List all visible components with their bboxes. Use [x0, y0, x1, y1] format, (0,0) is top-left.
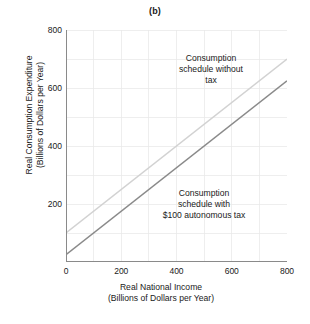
plot-area: Consumption schedule without tax Consump…: [66, 30, 287, 262]
y-axis-title: Real Consumption Expenditure (Billions o…: [24, 0, 46, 231]
annotation-no-tax-line-2: schedule without: [152, 64, 270, 75]
x-axis-line: [66, 261, 287, 262]
annotation-consumption-with-tax: Consumption schedule with $100 autonomou…: [128, 188, 280, 221]
annotation-consumption-without-tax: Consumption schedule without tax: [152, 53, 270, 86]
chart-figure: (b) 800 600 400 200 0 200 400 600 800 Re…: [0, 0, 310, 324]
annotation-with-tax-line-2: schedule with: [128, 199, 280, 210]
page-title: (b): [0, 6, 310, 16]
annotation-no-tax-line-3: tax: [152, 75, 270, 86]
annotation-with-tax-line-3: $100 autonomous tax: [128, 210, 280, 221]
x-axis-title-line-2: (Billions of Dollars per Year): [30, 293, 292, 304]
x-tick-0: 0: [64, 266, 69, 276]
annotation-with-tax-line-1: Consumption: [128, 188, 280, 199]
y-tick-800: 800: [48, 25, 62, 35]
y-axis-title-line-1: Real Consumption Expenditure: [24, 0, 35, 231]
y-axis-line: [66, 30, 67, 262]
x-tick-400: 400: [169, 266, 183, 276]
x-tick-600: 600: [225, 266, 239, 276]
line-consumption-with-tax: [66, 81, 287, 255]
x-axis-title: Real National Income (Billions of Dollar…: [30, 282, 292, 304]
annotation-no-tax-line-1: Consumption: [152, 53, 270, 64]
x-tick-200: 200: [114, 266, 128, 276]
y-tick-400: 400: [48, 141, 62, 151]
y-tick-200: 200: [48, 199, 62, 209]
y-axis-title-line-2: (Billions of Dollars per Year): [35, 0, 46, 231]
x-axis-tick-labels: 0 200 400 600 800: [66, 266, 287, 280]
x-axis-title-line-1: Real National Income: [30, 282, 292, 293]
y-tick-600: 600: [48, 83, 62, 93]
x-tick-800: 800: [280, 266, 294, 276]
